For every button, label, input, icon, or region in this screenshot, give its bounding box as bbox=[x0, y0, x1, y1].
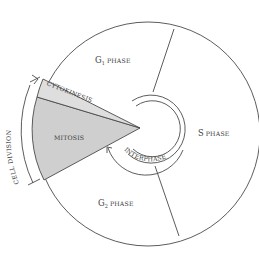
s-g2-divider bbox=[155, 166, 179, 236]
cell-cycle-diagram: G1PHASE SPHASE G2PHASE MITOSIS CYTOKINES… bbox=[0, 0, 259, 257]
g1-phase-label: G1PHASE bbox=[95, 55, 131, 66]
cell-division-tick-top bbox=[30, 77, 40, 82]
g2-phase-label: G2PHASE bbox=[98, 198, 134, 209]
mitosis-label: MITOSIS bbox=[54, 134, 84, 141]
g1-s-divider bbox=[153, 29, 174, 92]
s-phase-label: SPHASE bbox=[198, 128, 230, 138]
cell-division-arc bbox=[21, 85, 33, 183]
cell-division-label: CELL DIVISION bbox=[5, 129, 20, 185]
interphase-label: INTERPHASE bbox=[123, 146, 167, 163]
interphase-ring-inner bbox=[133, 101, 180, 157]
cell-division-tick-bottom bbox=[28, 179, 40, 185]
